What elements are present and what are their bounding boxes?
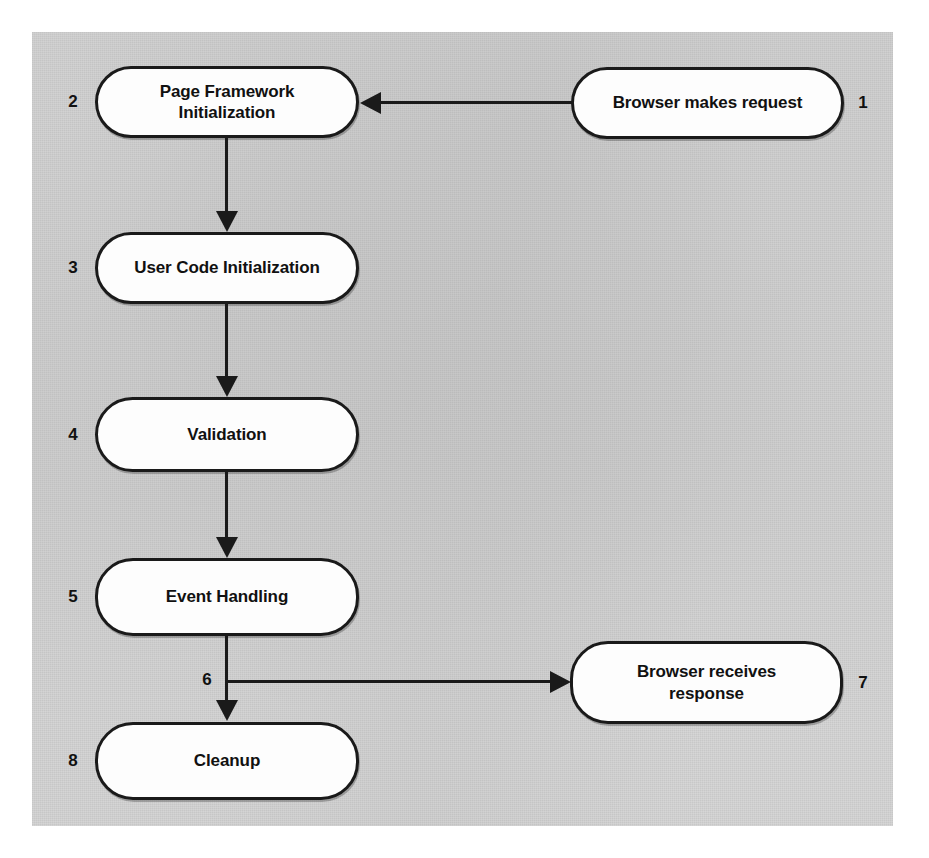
connector-line-framework-to-usercode — [225, 138, 228, 213]
arrowhead-validation-to-eventhandling — [216, 537, 238, 558]
node-label-browser-makes-request: Browser makes request — [599, 92, 817, 113]
arrowhead-branch-to-browser-receives — [550, 671, 571, 693]
step-number-2: 2 — [62, 92, 84, 112]
step-number-6: 6 — [196, 670, 218, 690]
connector-line-request-to-framework — [381, 101, 573, 104]
arrowhead-framework-to-usercode — [216, 211, 238, 232]
step-number-5: 5 — [62, 587, 84, 607]
node-browser-makes-request[interactable]: Browser makes request — [571, 67, 844, 139]
connector-line-usercode-to-validation — [225, 304, 228, 378]
step-number-3: 3 — [62, 258, 84, 278]
step-number-4: 4 — [62, 425, 84, 445]
node-label-browser-receives-response-line1: Browser receives — [637, 662, 776, 681]
node-label-page-framework-initialization: Page Framework Initialization — [98, 81, 356, 124]
node-browser-receives-response[interactable]: Browser receives response — [570, 641, 843, 724]
step-number-8: 8 — [62, 751, 84, 771]
node-label-browser-receives-response-line2: response — [669, 684, 744, 703]
node-label-user-code-initialization: User Code Initialization — [120, 257, 334, 278]
node-event-handling[interactable]: Event Handling — [95, 558, 359, 636]
connector-line-eventhandling-to-cleanup — [225, 636, 228, 703]
node-user-code-initialization[interactable]: User Code Initialization — [95, 232, 359, 304]
connector-line-validation-to-eventhandling — [225, 472, 228, 539]
node-validation[interactable]: Validation — [95, 397, 359, 472]
step-number-7: 7 — [852, 673, 874, 693]
arrowhead-usercode-to-validation — [216, 376, 238, 397]
arrowhead-request-to-framework — [360, 92, 381, 114]
node-label-event-handling: Event Handling — [152, 586, 302, 607]
node-cleanup[interactable]: Cleanup — [95, 722, 359, 800]
connector-line-branch-to-browser-receives — [227, 680, 552, 683]
node-label-cleanup: Cleanup — [180, 750, 274, 771]
node-label-browser-receives-response: Browser receives response — [623, 661, 790, 704]
node-page-framework-initialization[interactable]: Page Framework Initialization — [95, 66, 359, 138]
diagram-screenshot: Browser makes request 1 Page Framework I… — [0, 0, 929, 858]
arrowhead-eventhandling-to-cleanup — [216, 700, 238, 721]
node-label-validation: Validation — [173, 424, 280, 445]
step-number-1: 1 — [852, 93, 874, 113]
